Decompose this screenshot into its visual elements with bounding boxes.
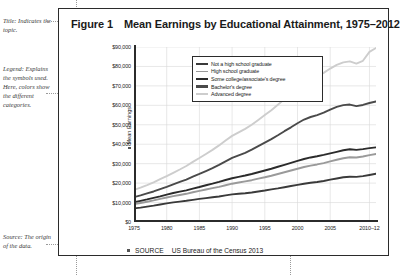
x-axis-tick-label: 1980 xyxy=(161,225,173,231)
y-axis-tick-label: $70,000 xyxy=(112,83,131,89)
figure-heading: Figure 1 Mean Earnings by Educational At… xyxy=(71,18,400,30)
legend-color-swatch xyxy=(196,93,208,95)
legend-color-swatch xyxy=(196,71,208,73)
y-axis-tick-label: $10,000 xyxy=(112,200,131,206)
y-axis-tick-label: $40,000 xyxy=(112,141,131,147)
x-axis-tick-label: 1985 xyxy=(194,225,206,231)
source-text: US Bureau of the Census 2013 xyxy=(172,247,263,254)
legend-item[interactable]: Not a high school graduate xyxy=(196,60,318,68)
y-axis-tick-label: $80,000 xyxy=(112,63,131,69)
x-axis-tick-label: 2005 xyxy=(324,225,336,231)
figure-title: Mean Earnings by Educational Attainment,… xyxy=(124,18,400,30)
legend-item-label: Not a high school graduate xyxy=(211,61,272,67)
figure-box: Figure 1 Mean Earnings by Educational At… xyxy=(58,8,389,256)
legend-item[interactable]: Some college/associate's degree xyxy=(196,75,318,83)
figure-source: SOURCE US Bureau of the Census 2013 xyxy=(127,247,263,254)
x-axis-tick-label: 2000 xyxy=(292,225,304,231)
chart-legend: Not a high school graduateHigh school gr… xyxy=(192,56,323,102)
y-axis-tick-label: $50,000 xyxy=(112,122,131,128)
bullet-marker-source-inline xyxy=(127,249,130,252)
annotation-title: Title: Indicates the topic. xyxy=(3,16,53,34)
y-axis-tick-label: $90,000 xyxy=(112,44,131,50)
figure-number-label: Figure 1 xyxy=(71,18,113,30)
legend-color-swatch xyxy=(196,78,208,81)
annotation-source: Source: The origin of the data. xyxy=(3,232,53,250)
y-axis-tick-label: $60,000 xyxy=(112,102,131,108)
legend-item-label: Some college/associate's degree xyxy=(211,76,285,82)
y-axis-line xyxy=(134,45,136,222)
chart-series-line xyxy=(134,154,376,204)
annotation-legend-label: Legend: xyxy=(3,65,24,72)
source-word: SOURCE xyxy=(135,247,164,254)
legend-item-label: Advanced degree xyxy=(211,91,251,97)
x-axis-tick-label: 1995 xyxy=(259,225,271,231)
legend-color-swatch xyxy=(196,85,208,88)
x-axis-line xyxy=(134,220,378,222)
legend-item-label: Bachelor's degree xyxy=(211,84,252,90)
y-axis-label: Mean Earnings xyxy=(126,88,132,168)
legend-item[interactable]: High school graduate xyxy=(196,68,318,76)
annotation-legend: Legend: Explains the symbols used. Here,… xyxy=(3,64,53,109)
legend-item-label: High school graduate xyxy=(211,68,259,74)
x-axis-tick-label: 1975 xyxy=(128,225,140,231)
x-axis-tick-label: 2010–12 xyxy=(359,225,379,231)
legend-color-swatch xyxy=(196,63,208,66)
y-axis-tick-label: $20,000 xyxy=(112,180,131,186)
legend-item[interactable]: Bachelor's degree xyxy=(196,83,318,91)
chart-series-line xyxy=(134,101,376,197)
y-axis-tick-label: $30,000 xyxy=(112,161,131,167)
annotation-source-label: Source: xyxy=(3,233,23,240)
x-axis-tick-label: 1990 xyxy=(226,225,238,231)
legend-item[interactable]: Advanced degree xyxy=(196,90,318,98)
annotation-title-label: Title: xyxy=(3,17,17,24)
